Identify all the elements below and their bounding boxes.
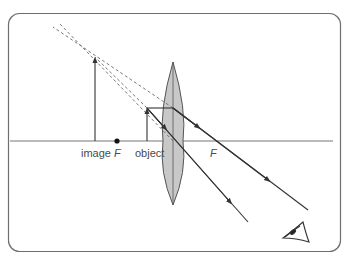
- object-label: object: [135, 147, 164, 159]
- eye-icon: [283, 222, 309, 242]
- virtual-ray-extensions: [53, 24, 173, 141]
- image-label: image: [81, 147, 111, 159]
- lens-diagram: image F object F: [0, 0, 347, 258]
- convex-lens: [162, 62, 184, 205]
- focal-point-left: [114, 138, 119, 143]
- focal-left-label: F: [114, 147, 122, 159]
- focal-right-label: F: [210, 147, 218, 159]
